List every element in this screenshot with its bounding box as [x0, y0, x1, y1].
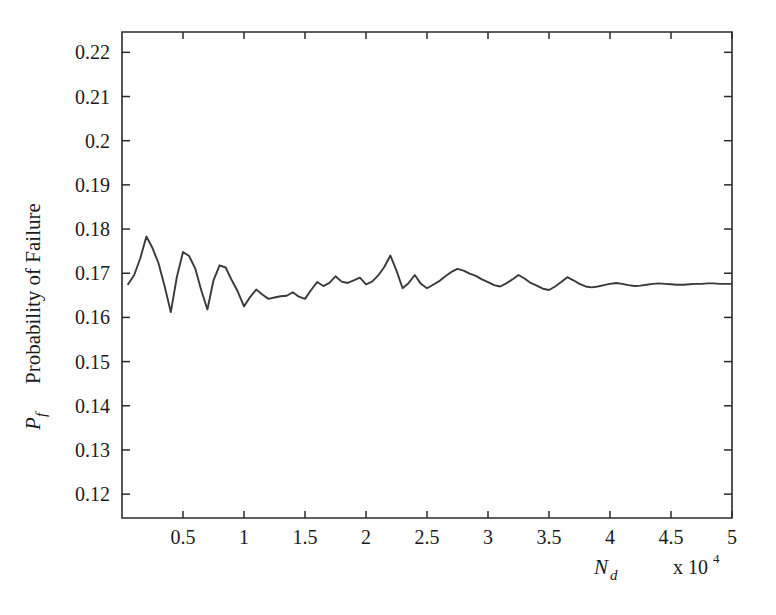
x-axis-multiplier-base: x 10: [673, 556, 708, 578]
x-axis-multiplier: x 10 4: [673, 551, 720, 578]
y-axis-title-subscript: f: [33, 411, 49, 417]
x-tick-label: 4: [605, 526, 615, 548]
chart-figure: 0.511.522.533.544.55 0.120.130.140.150.1…: [0, 0, 776, 615]
x-axis-title-symbol: N: [593, 555, 609, 579]
x-axis-multiplier-exponent: 4: [713, 551, 720, 566]
y-tick-label: 0.14: [75, 395, 110, 417]
x-axis-ticks: [183, 32, 732, 518]
data-series-group: [128, 237, 732, 313]
y-tick-label: 0.21: [75, 86, 110, 108]
x-tick-label: 2.5: [415, 526, 440, 548]
x-tick-label: 0.5: [171, 526, 196, 548]
x-axis-title-subscript: d: [610, 567, 618, 583]
probability-of-failure-line-chart: 0.511.522.533.544.55 0.120.130.140.150.1…: [0, 0, 776, 615]
y-axis-title-symbol: P: [21, 417, 45, 431]
x-tick-label: 4.5: [659, 526, 684, 548]
y-tick-label: 0.13: [75, 439, 110, 461]
x-tick-label: 5: [727, 526, 737, 548]
data-line-probability-of-failure: [128, 237, 732, 313]
y-axis-ticks: [122, 52, 732, 494]
y-tick-label: 0.18: [75, 218, 110, 240]
y-tick-label: 0.12: [75, 483, 110, 505]
plot-frame: [122, 32, 732, 518]
x-axis-tick-labels: 0.511.522.533.544.55: [171, 526, 738, 548]
x-tick-label: 3: [483, 526, 493, 548]
y-axis-title: P f Probability of Failure: [21, 203, 49, 431]
x-tick-label: 3.5: [537, 526, 562, 548]
y-tick-label: 0.16: [75, 306, 110, 328]
x-tick-label: 1.5: [293, 526, 318, 548]
x-tick-label: 2: [361, 526, 371, 548]
y-tick-label: 0.17: [75, 262, 110, 284]
y-tick-label: 0.19: [75, 174, 110, 196]
y-axis-title-text: Probability of Failure: [21, 203, 45, 384]
plot-box: [122, 32, 732, 518]
y-tick-label: 0.2: [85, 130, 110, 152]
x-axis-title: N d: [593, 555, 618, 583]
y-axis-tick-labels: 0.120.130.140.150.160.170.180.190.20.210…: [75, 41, 110, 505]
x-tick-label: 1: [239, 526, 249, 548]
y-tick-label: 0.15: [75, 351, 110, 373]
y-tick-label: 0.22: [75, 41, 110, 63]
